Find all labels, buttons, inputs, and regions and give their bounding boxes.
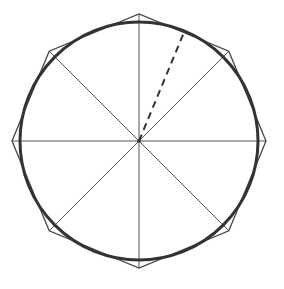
circle-octagon-figure bbox=[0, 0, 284, 289]
spoke-45deg bbox=[139, 51, 229, 141]
center-point bbox=[137, 139, 141, 143]
spoke-225deg bbox=[49, 141, 139, 231]
spoke-315deg bbox=[139, 141, 229, 231]
spoke-135deg bbox=[49, 51, 139, 141]
dashed-radius-line bbox=[139, 31, 185, 141]
geometry-diagram bbox=[0, 0, 284, 289]
